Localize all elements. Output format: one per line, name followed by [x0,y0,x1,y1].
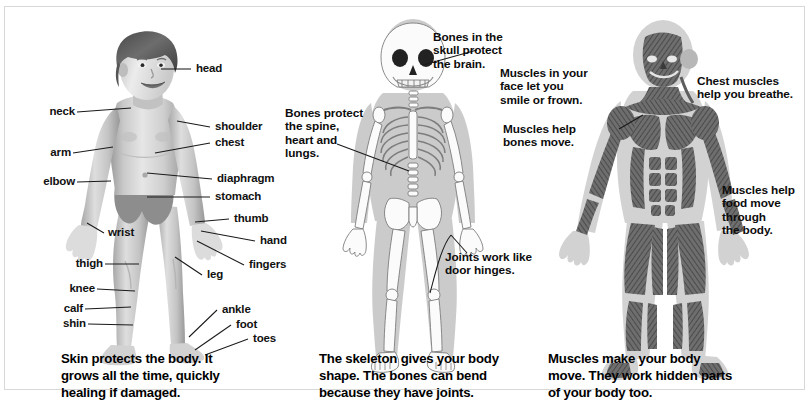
label-knee: knee [27,283,95,295]
label-fingers: fingers [249,259,286,271]
diagram-page: head neck shoulder arm chest elbow diaph… [0,0,811,416]
label-arm: arm [23,147,71,159]
label-ankle: ankle [222,304,251,316]
note-bones-protect-organs: Bones protect the spine, heart and lungs… [285,107,363,160]
note-chest-muscles: Chest muscles help you breathe. [697,75,793,102]
note-joints-hinges: Joints work like door hinges. [445,251,532,278]
skeleton-illustration [305,7,545,391]
caption-skin: Skin protects the body. It grows all the… [61,351,220,402]
label-foot: foot [236,319,257,331]
label-thigh: thigh [27,258,103,270]
label-shin: shin [27,318,86,330]
label-wrist: wrist [108,227,134,239]
label-shoulder: shoulder [215,121,262,133]
note-bones-move: Muscles help bones move. [503,123,576,150]
caption-bones: The skeleton gives your body shape. The … [319,351,499,402]
label-leg: leg [207,269,223,281]
label-elbow: elbow [17,176,75,188]
label-diaphragm: diaphragm [217,173,274,185]
note-face-muscles: Muscles in your face let you smile or fr… [500,67,588,107]
panel-muscles: Muscles in your face let you smile or fr… [545,7,806,391]
diagram-frame: head neck shoulder arm chest elbow diaph… [4,6,805,390]
note-skull-protects-brain: Bones in the skull protect the brain. [433,31,503,71]
label-chest: chest [215,137,244,149]
label-toes: toes [253,333,276,345]
label-hand: hand [260,235,287,247]
label-calf: calf [27,303,83,315]
panel-skin: head neck shoulder arm chest elbow diaph… [5,7,305,391]
label-head: head [196,63,222,75]
label-stomach: stomach [215,191,261,203]
panel-bones: Bones in the skull protect the brain. Bo… [305,7,545,391]
caption-muscles: Muscles make your body move. They work h… [548,351,732,402]
note-food-move: Muscles help food move through the body. [722,184,795,237]
label-thumb: thumb [234,213,268,225]
label-neck: neck [25,106,75,118]
